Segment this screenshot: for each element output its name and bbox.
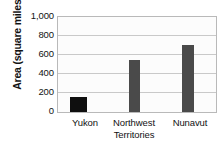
y-tick-label: 200 — [18, 87, 54, 97]
bar-chart: Area (square miles) 1,000 800 600 400 20… — [0, 0, 220, 153]
bar-yukon — [70, 97, 87, 112]
y-tick-label: 1,000 — [18, 11, 54, 21]
bar-northwest-territories — [129, 60, 140, 112]
x-tick-label-northwest-territories: Northwest Territories — [105, 117, 163, 140]
x-tick-label-line1: Nunavut — [173, 117, 208, 128]
x-tick-label-line1: Yukon — [72, 117, 98, 128]
bar-nunavut — [182, 45, 194, 112]
x-axis-tick-labels: Yukon Northwest Territories Nunavut — [57, 117, 217, 151]
y-tick-label: 0 — [18, 106, 54, 116]
y-axis-tick-labels: 1,000 800 600 400 200 0 — [18, 10, 54, 120]
y-tick-label: 600 — [18, 49, 54, 59]
y-tick-label: 400 — [18, 68, 54, 78]
y-tick-label: 800 — [18, 30, 54, 40]
x-tick-label-nunavut: Nunavut — [163, 117, 217, 129]
plot-area — [57, 16, 217, 113]
x-tick-label-line2: Territories — [105, 129, 163, 141]
x-tick-label-line1: Northwest — [113, 117, 155, 128]
bars-layer — [58, 17, 216, 112]
